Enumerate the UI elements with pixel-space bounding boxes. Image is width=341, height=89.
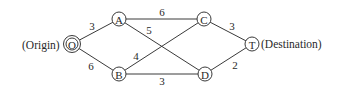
node-b: B: [112, 67, 126, 81]
node-a: A: [112, 12, 126, 26]
edge-weight-c-t: 3: [229, 20, 235, 32]
node-label: B: [115, 69, 122, 81]
edge-weight-d-t: 2: [232, 59, 238, 71]
edge-c-t: [204, 19, 252, 44]
edge-weight-b-d: 3: [159, 75, 165, 87]
edge-weight-a-c: 6: [159, 6, 165, 18]
node-label: O: [68, 39, 76, 51]
edge-d-t: [205, 44, 252, 74]
edge-weight-o-b: 6: [88, 60, 94, 72]
edge-weights-group: 36654332: [88, 6, 238, 87]
node-label: C: [200, 14, 207, 26]
node-t: T: [245, 37, 259, 51]
node-d: D: [198, 67, 212, 81]
origin-label: (Origin): [22, 39, 60, 52]
node-c: C: [197, 12, 211, 26]
node-label: A: [115, 14, 123, 26]
node-label: D: [201, 69, 209, 81]
network-diagram: 36654332 OABCDT (Origin) (Destination): [0, 0, 341, 89]
edge-weight-b-c: 4: [133, 50, 139, 62]
edge-weight-o-a: 3: [89, 20, 95, 32]
edge-weight-a-d: 5: [146, 24, 152, 36]
node-o: O: [64, 36, 81, 53]
node-label: T: [249, 39, 256, 51]
edges-group: [72, 19, 252, 74]
destination-label: (Destination): [261, 38, 322, 51]
